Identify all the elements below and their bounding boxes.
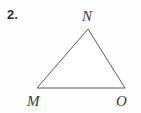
vertex-label-n: N	[82, 9, 92, 24]
triangle-outline	[37, 29, 125, 88]
vertex-label-m: M	[27, 94, 40, 109]
vertex-label-o: O	[116, 94, 127, 109]
geometry-figure: 2. N M O	[0, 0, 141, 113]
